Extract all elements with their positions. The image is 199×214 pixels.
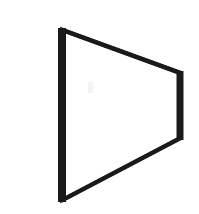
figure-panel: a) [0,0,199,214]
scan-artifact-speck [88,82,93,93]
trapezoid-figure [0,0,199,214]
